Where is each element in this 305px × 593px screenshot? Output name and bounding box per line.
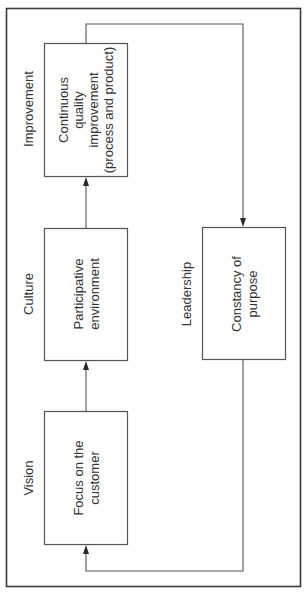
label-improvement: Improvement (21, 71, 36, 147)
vision-box (45, 412, 128, 545)
box-text-line: (process and product) (101, 47, 116, 173)
culture-box (45, 229, 128, 361)
box-text-line: Participative (71, 259, 86, 330)
box-text-line: quality (71, 91, 86, 129)
box-text-line: purpose (245, 271, 260, 318)
arrowhead-up-icon (83, 361, 89, 370)
vision-box-text: Focus on the customer (71, 440, 102, 515)
label-leadership: Leadership (179, 262, 194, 326)
box-text-line: customer (87, 451, 102, 505)
box-text-line: environment (87, 258, 102, 330)
arrowhead-up-icon (83, 177, 89, 186)
culture-box-text: Participative environment (71, 258, 102, 330)
arrowhead-up-icon (83, 545, 89, 554)
arrowhead-down-icon (240, 218, 246, 227)
label-vision: Vision (21, 460, 36, 495)
label-culture: Culture (21, 273, 36, 315)
leadership-box (203, 228, 286, 360)
quality-management-diagram: Improvement Culture Vision Leadership Co… (0, 0, 305, 593)
box-text-line: improvement (86, 72, 101, 148)
box-text-line: Focus on the (71, 440, 86, 515)
box-text-line: Continuous (56, 77, 71, 143)
box-text-line: Constancy of (229, 256, 244, 332)
